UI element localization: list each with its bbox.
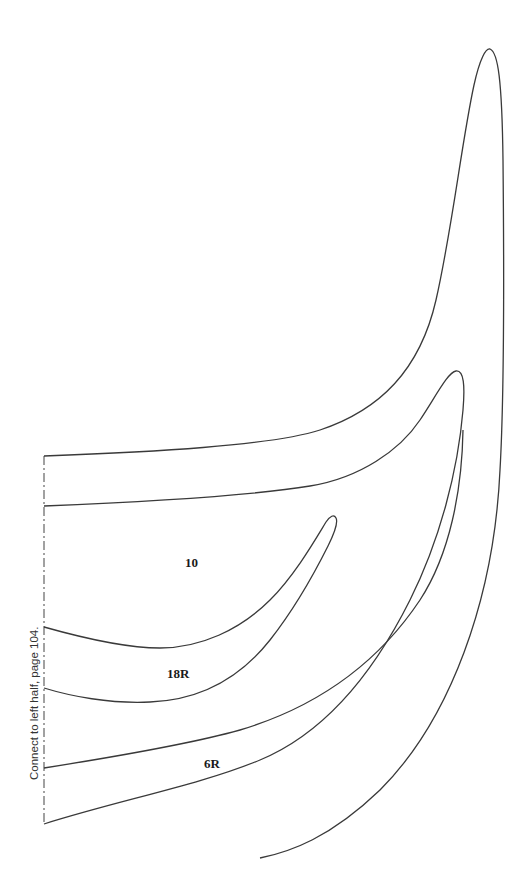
piece-10-inner-outline	[44, 371, 464, 824]
piece-label-10: 10	[185, 555, 198, 571]
piece-label-18r: 18R	[167, 666, 189, 682]
piece-10-upper-outline	[44, 49, 504, 858]
piece-6r-top-outline	[44, 430, 463, 768]
connect-note: Connect to left half, page 104.	[28, 627, 40, 780]
pattern-drawing	[0, 0, 528, 876]
piece-label-6r: 6R	[204, 756, 220, 772]
piece-18r-upper-outline	[44, 516, 337, 702]
